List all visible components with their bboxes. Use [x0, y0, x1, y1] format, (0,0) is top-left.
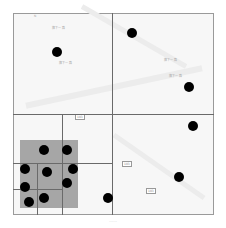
grid-line-horizontal-mid [13, 114, 214, 115]
data-point [188, 121, 198, 131]
data-point [20, 182, 30, 192]
data-point [24, 197, 34, 207]
map-label: 旗下一路 [164, 58, 177, 62]
data-point [42, 167, 52, 177]
map-label: 旗下一路 [59, 61, 72, 65]
data-point [20, 164, 30, 174]
data-point [174, 172, 184, 182]
grid-line-horizontal-sub [13, 163, 113, 164]
data-point [68, 164, 78, 174]
map-label: 旗下一路 [52, 26, 65, 30]
data-point [62, 145, 72, 155]
north-label: N [34, 14, 36, 18]
data-point [39, 193, 49, 203]
data-point [184, 82, 194, 92]
data-point [103, 193, 113, 203]
route-sign: 103 [146, 188, 156, 194]
map-label: 旗下一路 [169, 74, 182, 78]
figure-caption: …… [0, 218, 226, 223]
road [25, 65, 202, 108]
grid-line-vertical-sub [62, 114, 63, 215]
data-point [39, 145, 49, 155]
data-point [52, 47, 62, 57]
route-sign: 103 [122, 161, 132, 167]
data-point [62, 178, 72, 188]
data-point [127, 28, 137, 38]
